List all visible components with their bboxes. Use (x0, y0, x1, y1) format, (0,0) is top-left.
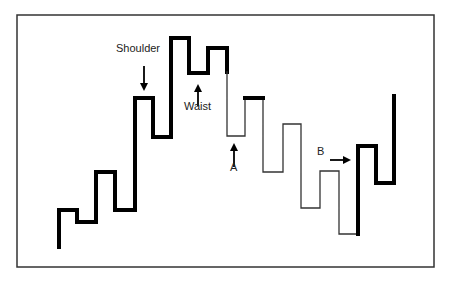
label-shoulder: Shoulder (116, 43, 160, 54)
label-b: B (317, 146, 324, 157)
arrow-b-icon (343, 156, 351, 164)
kagi-chart-diagram (0, 0, 450, 282)
kagi-line-group (59, 38, 394, 247)
uptrend-thick-line (59, 38, 227, 247)
arrow-waist-icon (194, 84, 202, 92)
arrow-a-icon (230, 143, 238, 151)
arrow-shoulder-icon (140, 83, 148, 91)
label-waist: Waist (184, 101, 211, 112)
reversal-thick-line (358, 96, 394, 234)
label-a: A (230, 162, 237, 173)
